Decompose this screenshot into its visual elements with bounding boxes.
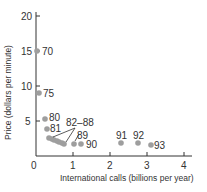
y-tick-label-15: 15 [21,46,33,57]
y-tick-label-5: 5 [25,116,31,127]
x-tick-label-4: 4 [181,160,187,171]
point-91 [118,140,124,146]
label-92: 92 [133,130,145,141]
x-tick-label-1: 1 [70,160,76,171]
point-93 [148,142,154,148]
scatter-chart: 20 15 10 5 0 1 2 3 4 International calls… [0,0,207,192]
point-92 [135,140,141,146]
y-tick-label-20: 20 [21,11,33,22]
label-91: 91 [116,130,128,141]
label-93: 93 [154,140,166,151]
point-88 [61,141,67,147]
point-70 [34,48,40,54]
point-90 [78,141,84,147]
point-75 [36,90,42,96]
y-tick-label-10: 10 [21,81,33,92]
label-82-88: 82–88 [66,117,94,128]
y-axis-title: Price (dollars per minute) [3,45,13,140]
x-tick-label-3: 3 [144,160,150,171]
label-70: 70 [42,46,54,57]
label-75: 75 [43,88,55,99]
x-tick-label-2: 2 [107,160,113,171]
label-80: 80 [49,112,61,123]
x-tick-label-0: 0 [31,160,37,171]
label-81: 81 [50,123,62,134]
point-81 [44,126,50,132]
point-80 [42,116,48,122]
label-90: 90 [86,139,98,150]
x-axis-title: International calls (billions per year) [60,173,194,183]
point-89 [71,141,77,147]
